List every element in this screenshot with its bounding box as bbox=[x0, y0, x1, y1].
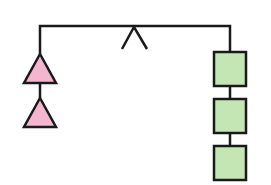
fulcrum bbox=[122, 27, 147, 49]
balance-diagram bbox=[0, 0, 271, 185]
beam-group bbox=[40, 26, 230, 54]
square-weight bbox=[214, 99, 246, 133]
right-weights bbox=[214, 52, 246, 180]
triangle-weight bbox=[24, 98, 56, 127]
square-weight bbox=[214, 52, 246, 86]
left-weights bbox=[24, 54, 56, 127]
square-weight bbox=[214, 146, 246, 180]
triangle-weight bbox=[24, 54, 56, 83]
